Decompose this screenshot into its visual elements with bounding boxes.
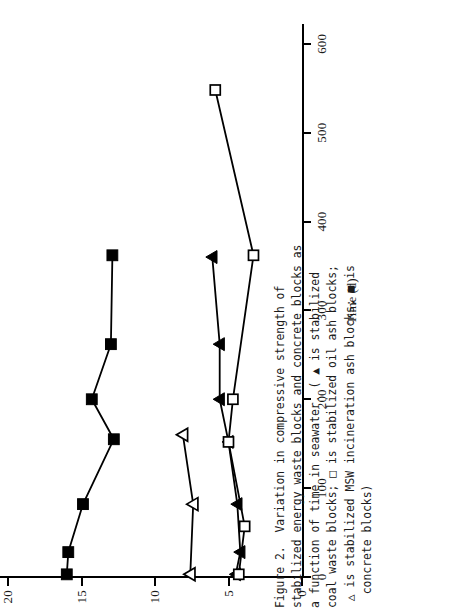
data-point-filled-square [106,339,117,350]
data-point-open-square [240,521,250,531]
series-concrete-blocks [61,250,119,580]
figure-page: 0100200300400500600 05101520 Time (d) Fi… [0,0,449,616]
data-point-filled-square [107,250,118,261]
data-point-filled-square [63,547,74,558]
data-point-filled-square [108,434,119,445]
data-point-open-square [224,437,234,447]
series-stabilized-msw-incineration-ash-blocks [176,428,197,581]
data-point-open-square [228,394,238,404]
data-point-filled-square [86,394,97,405]
series-line [67,255,114,574]
data-point-filled-triangle [213,393,224,406]
data-point-filled-triangle [206,251,217,264]
figure-caption: Figure 2. Variation in compressive stren… [272,8,376,608]
data-point-open-triangle [176,428,187,441]
data-point-open-square [234,569,244,579]
data-point-open-square [248,250,258,260]
data-point-filled-square [78,499,89,510]
data-point-open-triangle [184,568,195,581]
rotated-caption-stage: Figure 2. Variation in compressive stren… [272,8,392,608]
series-line [212,257,240,574]
data-point-open-square [210,85,220,95]
data-point-filled-square [61,569,72,580]
